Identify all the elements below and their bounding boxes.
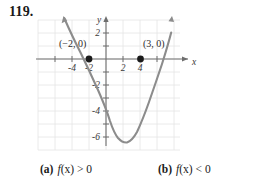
x-axis-label: x bbox=[191, 57, 197, 67]
answer-a-argument: (x) bbox=[61, 163, 74, 175]
y-axis-arrow-icon bbox=[103, 16, 108, 22]
point-label-right: (3, 0) bbox=[143, 38, 165, 50]
x-tick-label: 4 bbox=[138, 63, 143, 73]
answer-option-a: (a)f(x) > 0 bbox=[40, 164, 92, 176]
y-tick-label: -6 bbox=[92, 132, 100, 142]
answer-a-relation: > 0 bbox=[74, 163, 92, 175]
point-label-left: (−2, 0) bbox=[59, 38, 86, 50]
answer-b-expression: f(x) < 0 bbox=[176, 163, 211, 175]
x-tick-label: 2 bbox=[121, 63, 126, 73]
y-tick-label: -4 bbox=[92, 106, 100, 116]
answer-option-b: (b)f(x) < 0 bbox=[158, 164, 211, 176]
answer-a-tag: (a) bbox=[40, 163, 53, 175]
x-intercept-point-right bbox=[137, 56, 144, 63]
x-intercept-point-left bbox=[86, 56, 93, 63]
answer-b-argument: (x) bbox=[179, 163, 192, 175]
answer-row: (a)f(x) > 0 (b)f(x) < 0 bbox=[0, 160, 255, 184]
x-tick-label: -4 bbox=[68, 63, 76, 73]
answer-a-expression: f(x) > 0 bbox=[57, 163, 92, 175]
answer-b-tag: (b) bbox=[158, 163, 172, 175]
curve-right-arrow-icon bbox=[169, 16, 175, 22]
y-tick-label: 2 bbox=[95, 28, 100, 38]
coordinate-plane-svg: -4 -2 2 4 2 -2 -4 -6 x y (−2, 0) (3, 0) bbox=[28, 14, 213, 154]
y-axis-label: y bbox=[96, 15, 102, 25]
graph-figure: -4 -2 2 4 2 -2 -4 -6 x y (−2, 0) (3, 0) bbox=[28, 14, 213, 154]
answer-b-relation: < 0 bbox=[193, 163, 211, 175]
x-axis-arrow-icon bbox=[182, 56, 188, 61]
